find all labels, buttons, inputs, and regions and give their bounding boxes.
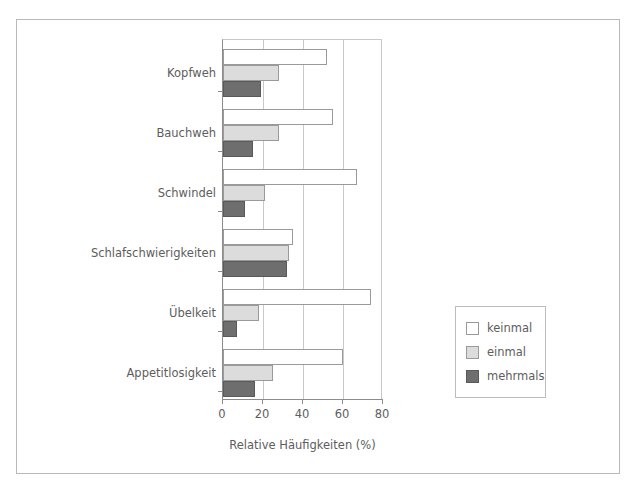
bar-group-uebelkeit [223, 289, 381, 340]
ytick-label-schwindel: Schwindel [30, 186, 216, 200]
bar-group-schwindel [223, 169, 381, 220]
legend-swatch-mehrmals [466, 370, 479, 383]
ytick-label-kopfweh: Kopfweh [30, 66, 216, 80]
legend-label-mehrmals: mehrmals [487, 369, 545, 383]
bar-bauchweh-keinmal[interactable] [223, 109, 333, 125]
x-axis-title: Relative Häufigkeiten (%) [222, 438, 383, 452]
bar-kopfweh-einmal[interactable] [223, 65, 279, 81]
xtick-label-40: 40 [282, 407, 322, 421]
bar-group-schlafschwierigkeiten [223, 229, 381, 280]
xtick-mark-20 [262, 399, 263, 404]
plot-area [222, 39, 382, 399]
bar-uebelkeit-einmal[interactable] [223, 305, 259, 321]
legend-item-keinmal[interactable]: keinmal [466, 316, 535, 340]
legend-item-mehrmals[interactable]: mehrmals [466, 364, 535, 388]
bar-schlafschwierigkeiten-einmal[interactable] [223, 245, 289, 261]
bar-group-appetitlosigkeit [223, 349, 381, 400]
xtick-label-80: 80 [362, 407, 402, 421]
bar-schwindel-mehrmals[interactable] [223, 201, 245, 217]
bar-appetitlosigkeit-mehrmals[interactable] [223, 381, 255, 397]
bar-bauchweh-mehrmals[interactable] [223, 141, 253, 157]
ytick-label-appetitlosigkeit: Appetitlosigkeit [30, 366, 216, 380]
bar-schwindel-einmal[interactable] [223, 185, 265, 201]
bar-uebelkeit-mehrmals[interactable] [223, 321, 237, 337]
xtick-label-0: 0 [202, 407, 242, 421]
bar-kopfweh-mehrmals[interactable] [223, 81, 261, 97]
chart-figure: Kopfweh Bauchweh Schwindel Schlafschwier… [0, 0, 639, 494]
bar-uebelkeit-keinmal[interactable] [223, 289, 371, 305]
bar-appetitlosigkeit-keinmal[interactable] [223, 349, 343, 365]
ytick-label-schlafschwierigkeiten: Schlafschwierigkeiten [30, 246, 216, 260]
xtick-mark-40 [302, 399, 303, 404]
bar-group-kopfweh [223, 49, 381, 100]
xtick-mark-60 [342, 399, 343, 404]
legend-swatch-einmal [466, 346, 479, 359]
legend-label-einmal: einmal [487, 345, 526, 359]
legend-item-einmal[interactable]: einmal [466, 340, 535, 364]
xtick-label-60: 60 [322, 407, 362, 421]
ytick-label-bauchweh: Bauchweh [30, 126, 216, 140]
legend: keinmal einmal mehrmals [455, 306, 546, 398]
bar-bauchweh-einmal[interactable] [223, 125, 279, 141]
legend-label-keinmal: keinmal [487, 321, 532, 335]
xtick-label-20: 20 [242, 407, 282, 421]
bar-kopfweh-keinmal[interactable] [223, 49, 327, 65]
legend-swatch-keinmal [466, 322, 479, 335]
bar-group-bauchweh [223, 109, 381, 160]
bar-appetitlosigkeit-einmal[interactable] [223, 365, 273, 381]
xtick-mark-80 [382, 399, 383, 404]
bar-schlafschwierigkeiten-keinmal[interactable] [223, 229, 293, 245]
bar-schwindel-keinmal[interactable] [223, 169, 357, 185]
xtick-mark-0 [222, 399, 223, 404]
ytick-label-uebelkeit: Übelkeit [30, 306, 216, 320]
bar-schlafschwierigkeiten-mehrmals[interactable] [223, 261, 287, 277]
